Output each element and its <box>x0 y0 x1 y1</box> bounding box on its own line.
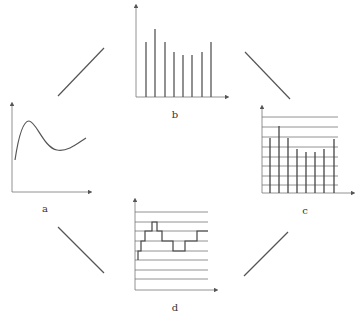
signal-conversion-diagram: a b <box>0 0 356 325</box>
label-a: a <box>42 203 48 214</box>
connector-b-c <box>245 52 290 99</box>
quantization-levels <box>262 117 338 185</box>
analog-curve <box>15 121 86 160</box>
sample-stems <box>270 126 334 193</box>
connector-d-a <box>58 227 104 273</box>
panel-b-sampled-signal: b <box>136 6 227 120</box>
label-d: d <box>172 302 179 313</box>
connector-a-b <box>58 48 104 96</box>
panel-c-quantized-samples: c <box>262 107 353 216</box>
panel-a-analog-signal: a <box>12 104 90 214</box>
connector-c-d <box>244 232 288 276</box>
quantization-levels <box>135 212 208 279</box>
label-c: c <box>302 205 308 216</box>
panel-d-digital-signal: d <box>135 200 216 313</box>
sample-stems <box>146 29 211 97</box>
label-b: b <box>172 109 178 120</box>
